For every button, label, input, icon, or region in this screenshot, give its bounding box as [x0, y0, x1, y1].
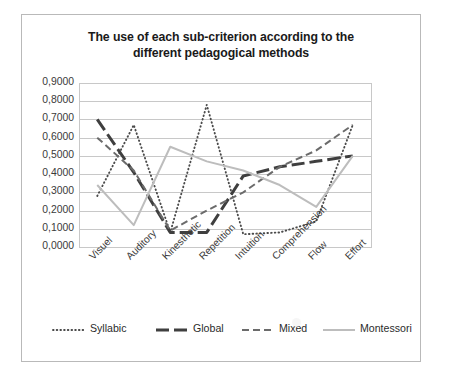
- legend-label: Syllabic: [90, 322, 127, 334]
- chart-figure: The use of each sub-criterion according …: [21, 14, 421, 362]
- legend-item-global[interactable]: Global: [155, 318, 224, 338]
- y-axis-tick-label: 0,4000: [22, 167, 74, 178]
- legend-label: Global: [193, 322, 224, 334]
- legend-swatch-dotted-icon: [52, 322, 86, 334]
- legend-swatch-solid-icon: [322, 322, 356, 334]
- legend-item-montessori[interactable]: Montessori: [322, 318, 412, 338]
- chart-legend: SyllabicGlobalMixedMontessori: [22, 318, 422, 346]
- scan-artifact: [292, 318, 301, 327]
- y-axis-tick-label: 0,2000: [22, 204, 74, 215]
- legend-swatch-thick-dash-icon: [155, 322, 189, 334]
- legend-item-syllabic[interactable]: Syllabic: [52, 318, 127, 338]
- y-axis-tick-label: 0,5000: [22, 149, 74, 160]
- legend-swatch-dashed-icon: [241, 322, 275, 334]
- line-chart-canvas: [22, 15, 422, 363]
- y-axis-tick-label: 0,1000: [22, 222, 74, 233]
- y-axis-tick-label: 0,6000: [22, 131, 74, 142]
- y-axis-tick-label: 0,8000: [22, 94, 74, 105]
- y-axis-tick-label: 0,3000: [22, 185, 74, 196]
- y-axis-tick-label: 0,0000: [22, 240, 74, 251]
- y-axis-tick-label: 0,7000: [22, 112, 74, 123]
- plot-area: 0,90000,80000,70000,60000,50000,40000,30…: [22, 15, 422, 363]
- legend-label: Montessori: [360, 322, 412, 334]
- y-axis-tick-label: 0,9000: [22, 76, 74, 87]
